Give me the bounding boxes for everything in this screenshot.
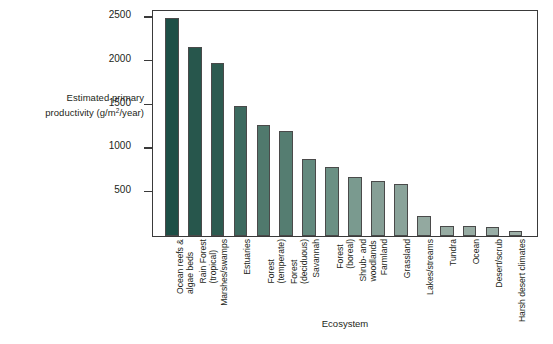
primary-productivity-bar-chart: Estimated primary productivity (g/m2/yea…: [0, 0, 553, 344]
x-axis-label-line: Tundra: [449, 239, 459, 266]
bar: [188, 47, 202, 236]
y-tick-label-2500: 2500: [109, 9, 131, 20]
x-axis-label: Savannah: [312, 239, 322, 278]
y-tick-2000: 2000: [144, 60, 153, 61]
x-axis-label-line: Ocean: [472, 239, 482, 264]
x-axis-label: Lakes/streams: [426, 239, 436, 295]
bar: [234, 106, 248, 236]
x-axis-label-line: Rain Forest: [199, 239, 209, 283]
y-tick-500: 500: [144, 191, 153, 192]
bar: [463, 226, 477, 236]
x-axis-label: Grassland: [403, 239, 413, 278]
bar: [257, 125, 271, 236]
x-axis-label-line: Lakes/streams: [426, 239, 436, 295]
x-axis-label-line: Harsh desert climates: [518, 239, 528, 322]
x-axis-title: Ecosystem: [152, 318, 538, 329]
bar: [417, 216, 431, 236]
x-axis-label-line: Estuaries: [243, 239, 253, 275]
x-axis-label: Forest(deciduous): [290, 239, 309, 284]
x-axis-label: Shrub- andwoodlands: [359, 239, 378, 282]
x-axis-label: Forest(boreal): [336, 239, 355, 269]
bar: [348, 177, 362, 236]
bar: [440, 226, 454, 236]
x-axis-label-line: Savannah: [312, 239, 322, 278]
y-tick-1000: 1000: [144, 147, 153, 148]
y-tick-label-1500: 1500: [109, 97, 131, 108]
x-axis-label: Rain Forest(tropical): [199, 239, 218, 283]
y-tick-2500: 2500: [144, 16, 153, 17]
x-axis-label: Harsh desert climates: [518, 239, 528, 322]
plot-area: 5001000150020002500: [152, 10, 538, 237]
x-axis-label: Ocean reefs &algae beds: [176, 239, 195, 294]
x-axis-label-line: (tropical): [208, 239, 218, 283]
x-axis-label: Marshes/swamps: [220, 239, 230, 306]
bar: [325, 167, 339, 236]
y-axis-title-units-post: /year): [119, 107, 144, 118]
x-axis-label-line: (boreal): [346, 239, 356, 269]
x-axis-label: Tundra: [449, 239, 459, 266]
x-axis-label-line: (deciduous): [300, 239, 310, 284]
x-axis-label-line: (temperate): [277, 239, 287, 283]
x-axis-label: Ocean: [472, 239, 482, 264]
y-tick-1500: 1500: [144, 104, 153, 105]
x-axis-label-line: Farmland: [380, 239, 390, 275]
bar: [509, 231, 523, 236]
bar: [302, 159, 316, 236]
x-axis-label: Forest(temperate): [267, 239, 286, 283]
x-axis-label-line: Ocean reefs &: [176, 239, 186, 294]
bar: [394, 184, 408, 236]
bar: [371, 181, 385, 236]
y-tick-label-2000: 2000: [109, 53, 131, 64]
x-axis-label-line: Marshes/swamps: [220, 239, 230, 306]
y-axis-title-units-pre: productivity (g/m: [45, 107, 116, 118]
bar: [486, 227, 500, 236]
bar: [211, 63, 225, 236]
x-axis-label-line: Grassland: [403, 239, 413, 278]
x-axis-label-line: woodlands: [369, 239, 379, 282]
x-axis-label: Estuaries: [243, 239, 253, 275]
y-tick-label-1000: 1000: [109, 140, 131, 151]
bar: [165, 18, 179, 236]
x-axis-label-line: Desert/scrub: [495, 239, 505, 288]
bar-series: [153, 11, 537, 236]
bar: [279, 131, 293, 236]
x-axis-label: Farmland: [380, 239, 390, 275]
x-axis-label: Desert/scrub: [495, 239, 505, 288]
y-tick-label-500: 500: [114, 184, 131, 195]
x-axis-label-line: algae beds: [185, 239, 195, 294]
